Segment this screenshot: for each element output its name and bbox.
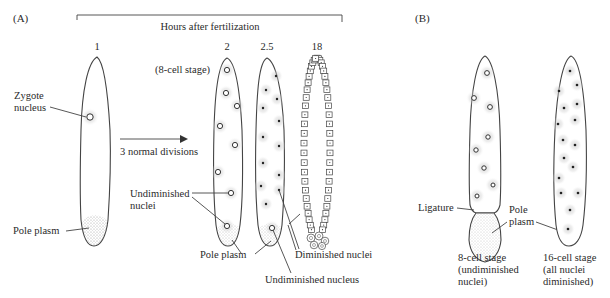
timeline-bracket: Hours after fertilization (77, 15, 342, 32)
label-ligature: Ligature (418, 202, 454, 213)
embryo-ligated-8cell (466, 56, 501, 262)
embryo-diminution-diagram: (A) (B) Hours after fertilization 1 2 2.… (0, 0, 610, 298)
time-label-1: 1 (94, 41, 99, 52)
label-undiminished-nucleus: Undiminished nucleus (265, 274, 359, 285)
undiminished-nucleus (269, 225, 274, 230)
label-diminished-nuclei: Diminished nuclei (295, 249, 372, 260)
label-pole-plasm-1: Pole plasm (13, 225, 59, 236)
label-zygote-line2: nucleus (14, 102, 46, 113)
panel-a-label: (A) (13, 12, 29, 25)
label-8-cell-stage: (8-cell stage) (155, 64, 211, 76)
label-pole-plasm-b-line1: Pole (509, 204, 528, 215)
caption-8cell-line1: 8-cell stage (458, 252, 506, 263)
embryo-2-5hr (254, 58, 286, 246)
caption-8cell-line2: (undiminished (458, 264, 519, 276)
embryo-2hr (210, 58, 245, 246)
zygote-nucleus (87, 114, 93, 120)
label-pole-plasm-b-line2: plasm (509, 216, 534, 227)
time-label-2: 2 (224, 41, 229, 52)
timeline-header: Hours after fertilization (160, 21, 260, 32)
label-3-normal-divisions: 3 normal divisions (120, 146, 198, 157)
panel-b-label: (B) (415, 12, 430, 25)
caption-8cell-line3: nuclei) (458, 276, 488, 288)
label-undiminished-nuclei-line1: Undiminished (130, 188, 190, 199)
caption-16cell-line1: 16-cell stage (543, 252, 597, 263)
division-arrow (120, 135, 188, 143)
time-label-2-5: 2.5 (260, 41, 273, 52)
label-zygote-line1: Zygote (14, 90, 44, 101)
embryo-18hr (301, 55, 333, 249)
caption-16cell-line3: diminished) (543, 276, 594, 288)
embryo-zygote (80, 57, 110, 246)
caption-16cell-line2: (all nuclei (543, 264, 585, 276)
embryo-16cell (551, 56, 586, 246)
label-undiminished-nuclei-line2: nuclei (130, 200, 156, 211)
time-label-18: 18 (312, 41, 323, 52)
